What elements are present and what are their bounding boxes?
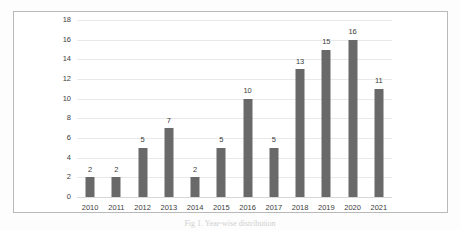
bar-series: 2201022011520127201322014520151020165201…: [77, 20, 392, 197]
x-axis-tick-label: 2015: [213, 204, 230, 212]
bar-group[interactable]: 102016: [235, 20, 261, 197]
bar-value-label: 13: [296, 58, 304, 66]
bar-value-label: 16: [348, 28, 356, 36]
bar-value-label: 2: [114, 166, 118, 174]
figure-caption: Fig 1. Year-wise distribution: [0, 219, 460, 230]
bar-value-label: 7: [167, 117, 171, 125]
y-axis-tick-label: 18: [63, 16, 71, 24]
x-axis-tick-label: 2012: [134, 204, 151, 212]
bar-group[interactable]: 112021: [366, 20, 392, 197]
x-axis-tick-label: 2013: [161, 204, 178, 212]
bar[interactable]: [112, 177, 121, 197]
y-axis-tick-label: 12: [63, 75, 71, 83]
bar[interactable]: [243, 99, 252, 197]
bar-group[interactable]: 52012: [130, 20, 156, 197]
bar[interactable]: [217, 148, 226, 197]
x-axis-tick-label: 2011: [108, 204, 124, 212]
x-axis-tick-label: 2018: [292, 204, 309, 212]
bar[interactable]: [374, 89, 383, 197]
y-axis-tick-label: 10: [63, 95, 71, 103]
bar-value-label: 10: [243, 87, 251, 95]
x-axis-tick-label: 2019: [318, 204, 335, 212]
bar-value-label: 5: [141, 136, 145, 144]
y-axis-tick-label: 4: [67, 154, 71, 162]
bar[interactable]: [191, 177, 200, 197]
bar-value-label: 2: [193, 166, 197, 174]
bar-group[interactable]: 152019: [313, 20, 339, 197]
plot-area: 024681012141618 220102201152012720132201…: [77, 20, 392, 197]
bar-value-label: 5: [272, 136, 276, 144]
bar[interactable]: [164, 128, 173, 197]
bar[interactable]: [86, 177, 95, 197]
y-axis-tick-label: 0: [67, 193, 71, 201]
x-axis-tick-label: 2021: [371, 204, 388, 212]
bar-group[interactable]: 52017: [261, 20, 287, 197]
bar-group[interactable]: 52015: [208, 20, 234, 197]
bar[interactable]: [322, 50, 331, 198]
x-axis-tick-label: 2010: [82, 204, 99, 212]
y-axis-tick-label: 16: [63, 36, 71, 44]
bar[interactable]: [348, 40, 357, 197]
x-axis-tick-label: 2014: [187, 204, 204, 212]
y-axis-tick-label: 6: [67, 134, 71, 142]
bar[interactable]: [138, 148, 147, 197]
y-axis-tick-label: 8: [67, 115, 71, 123]
x-axis-tick-label: 2017: [266, 204, 283, 212]
x-axis-tick-label: 2020: [344, 204, 361, 212]
bar[interactable]: [269, 148, 278, 197]
bar-value-label: 15: [322, 38, 330, 46]
x-axis-tick-label: 2016: [239, 204, 256, 212]
bar-group[interactable]: 22011: [103, 20, 129, 197]
chart-frame: 024681012141618 220102201152012720132201…: [13, 11, 448, 213]
bar-value-label: 11: [375, 77, 383, 85]
bar-group[interactable]: 22014: [182, 20, 208, 197]
bar[interactable]: [296, 69, 305, 197]
bar-value-label: 5: [219, 136, 223, 144]
gridline: [77, 197, 392, 198]
bar-group[interactable]: 72013: [156, 20, 182, 197]
bar-group[interactable]: 162020: [340, 20, 366, 197]
bar-group[interactable]: 132018: [287, 20, 313, 197]
bar-value-label: 2: [88, 166, 92, 174]
bar-group[interactable]: 22010: [77, 20, 103, 197]
y-axis-tick-label: 14: [63, 56, 71, 64]
y-axis-tick-label: 2: [67, 174, 71, 182]
